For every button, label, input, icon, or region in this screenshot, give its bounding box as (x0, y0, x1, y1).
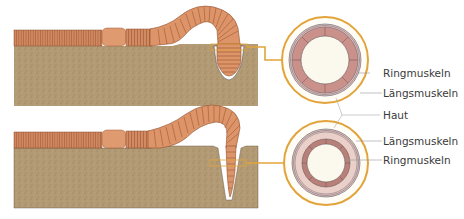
label-haut: Haut (383, 109, 408, 121)
label-bottom-laengsmuskeln: Längsmuskeln (383, 135, 458, 147)
top-panel (14, 6, 382, 106)
top-cross-section (282, 17, 368, 103)
bottom-worm-tail (14, 132, 102, 148)
bottom-cross-section (284, 121, 368, 205)
label-top-ringmuskeln: Ringmuskeln (383, 67, 451, 79)
top-worm-tail (14, 30, 102, 46)
bottom-panel (14, 105, 382, 208)
label-bottom-ringmuskeln: Ringmuskeln (383, 154, 451, 166)
bottom-clitellum (102, 130, 126, 148)
label-top-laengsmuskeln: Längsmuskeln (383, 87, 458, 99)
bottom-soil (14, 146, 258, 208)
bottom-worm-arch (148, 105, 240, 148)
top-clitellum (102, 28, 126, 46)
